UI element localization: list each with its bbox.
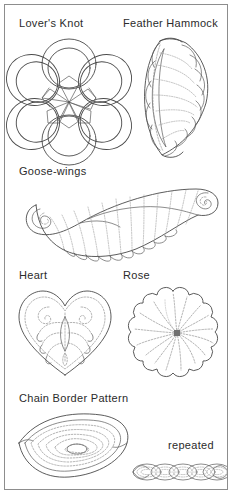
chain-repeat-artwork bbox=[133, 464, 228, 480]
label-chain-border-pattern: Chain Border Pattern bbox=[19, 392, 128, 405]
label-heart: Heart bbox=[19, 269, 47, 282]
chain-border-artwork bbox=[19, 414, 128, 477]
figure-heart bbox=[15, 287, 115, 379]
pattern-sheet-frame: Lover's Knot bbox=[4, 4, 228, 490]
rose-artwork bbox=[128, 287, 217, 376]
figure-lovers-knot bbox=[13, 35, 125, 157]
figure-chain-border-repeated bbox=[133, 457, 228, 487]
label-lovers-knot: Lover's Knot bbox=[19, 17, 83, 30]
feather-hammock-artwork bbox=[145, 38, 208, 157]
label-rose: Rose bbox=[123, 269, 150, 282]
figure-goose-wings bbox=[10, 183, 228, 263]
label-feather-hammock: Feather Hammock bbox=[123, 17, 218, 30]
goose-wings-artwork bbox=[26, 189, 218, 261]
label-chain-border-repeated: repeated bbox=[168, 439, 214, 452]
figure-feather-hammock bbox=[130, 33, 228, 163]
label-goose-wings: Goose-wings bbox=[19, 165, 87, 178]
heart-artwork bbox=[19, 291, 111, 375]
pattern-sheet-page: Lover's Knot bbox=[0, 0, 232, 494]
figure-chain-border-pattern bbox=[15, 409, 135, 481]
lovers-knot-artwork bbox=[4, 39, 141, 165]
figure-rose bbox=[125, 285, 221, 379]
